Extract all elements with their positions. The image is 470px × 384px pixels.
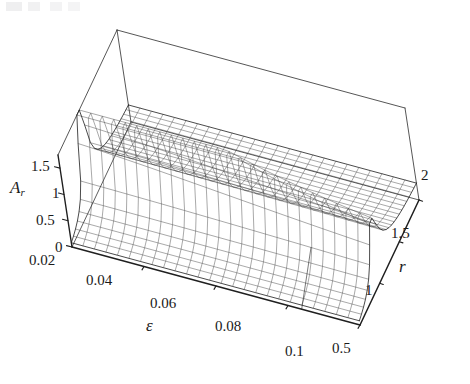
amplitude-axis-title: Ar bbox=[10, 179, 25, 198]
tick-label: 1 bbox=[52, 186, 60, 201]
tick-label: 0 bbox=[55, 240, 63, 255]
tick-label: 0.06 bbox=[150, 296, 176, 311]
tick-label: 0.5 bbox=[332, 341, 351, 356]
tick-label: 0.5 bbox=[36, 213, 55, 228]
tick-label: 0.02 bbox=[29, 253, 55, 268]
tick-label: 0.04 bbox=[86, 273, 112, 288]
surface-plot-figure: 1.510.50 0.020.040.060.080.1 0.511.52 Ar… bbox=[0, 0, 470, 384]
tick-label: 2 bbox=[421, 168, 429, 183]
tick-label: 1 bbox=[365, 283, 373, 298]
axis-box-front-edges bbox=[58, 155, 419, 325]
tick-label: 1.5 bbox=[31, 159, 50, 174]
axis-tick-marks bbox=[55, 167, 423, 329]
amplitude-axis-title-subscript: r bbox=[20, 186, 24, 198]
r-axis-title: r bbox=[399, 258, 406, 275]
tick-label: 0.08 bbox=[215, 319, 241, 334]
amplitude-axis-title-base: A bbox=[10, 178, 20, 197]
tick-label: 1.5 bbox=[391, 226, 410, 241]
tick-label: 0.1 bbox=[285, 344, 304, 359]
epsilon-axis-title: ε bbox=[146, 317, 153, 334]
